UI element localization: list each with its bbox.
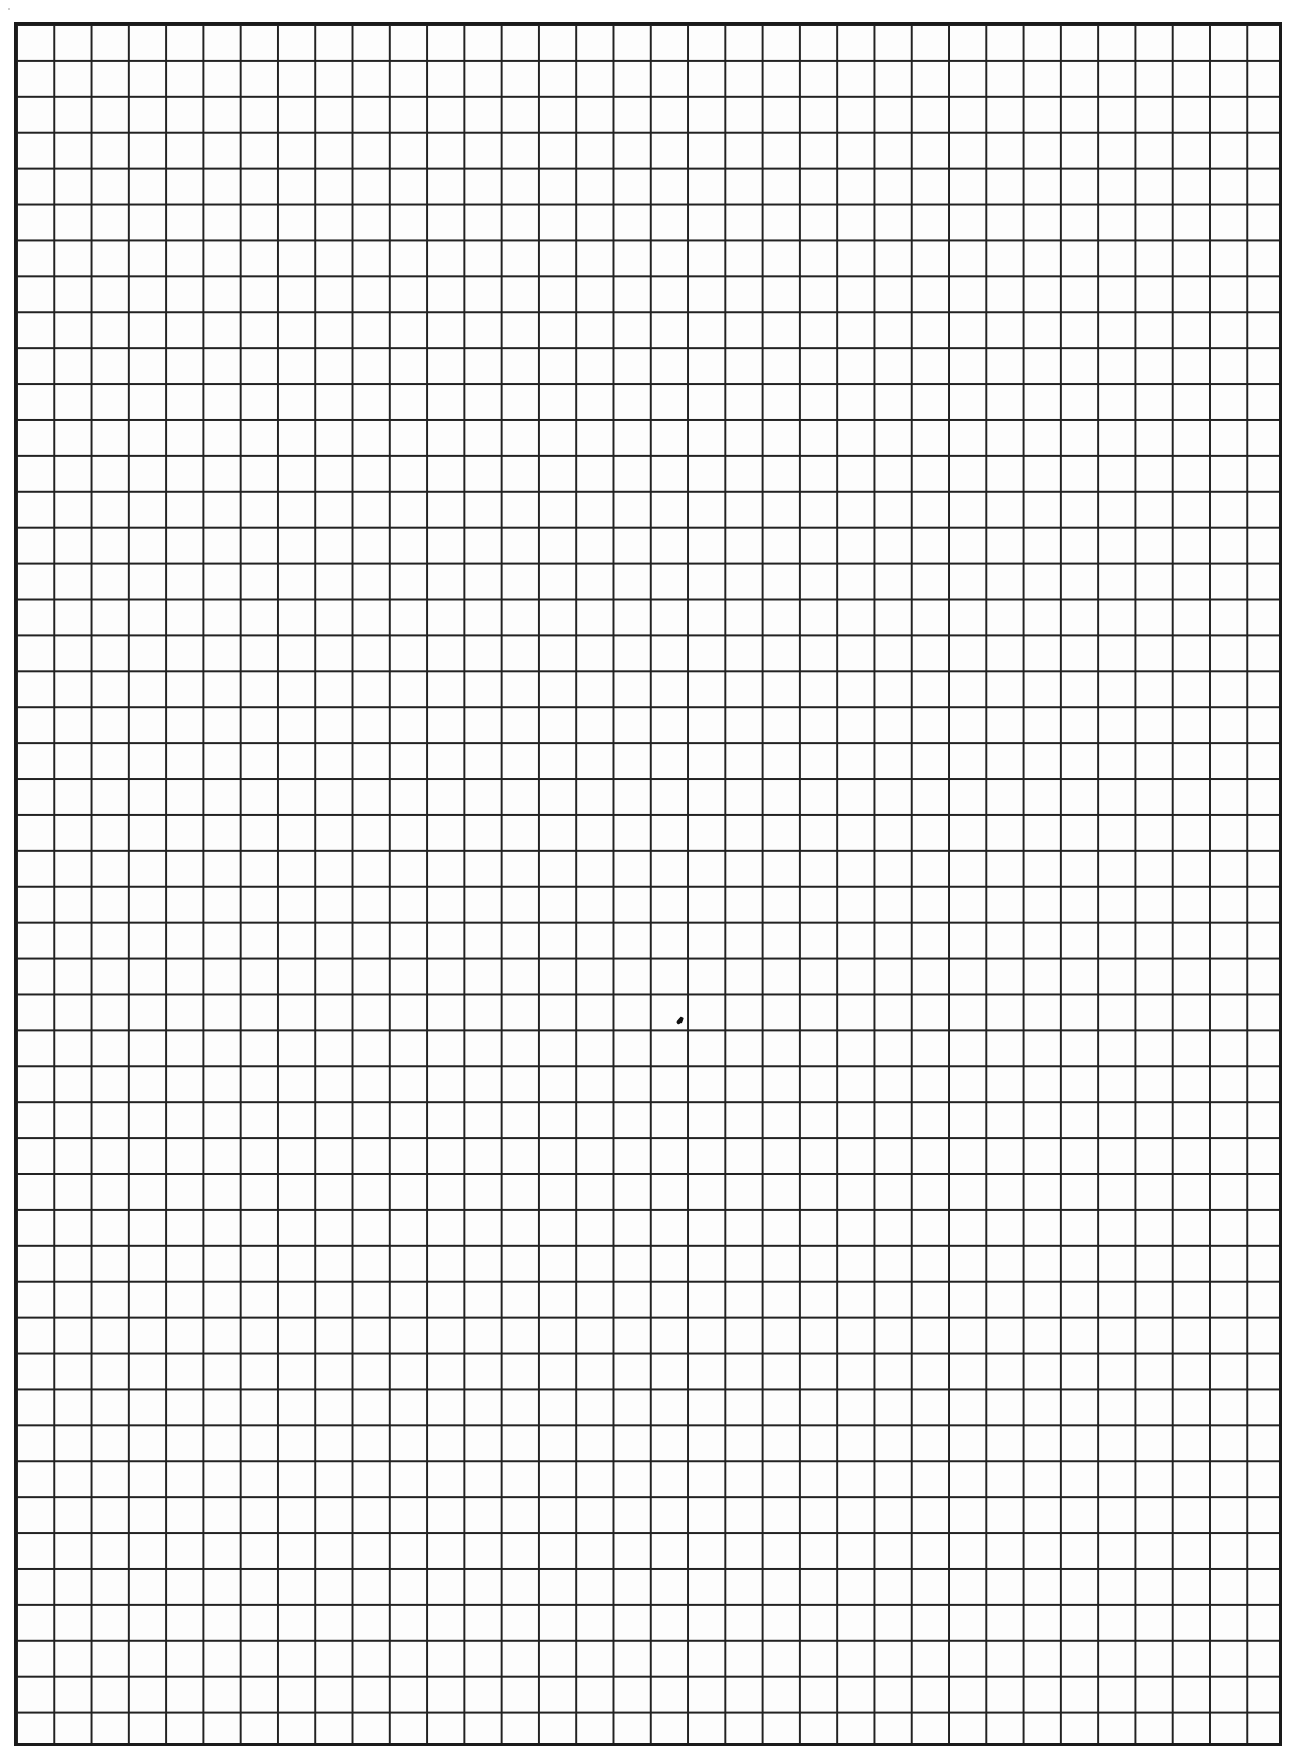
graph-paper-grid: [14, 22, 1282, 1746]
scan-speck: [8, 8, 10, 10]
